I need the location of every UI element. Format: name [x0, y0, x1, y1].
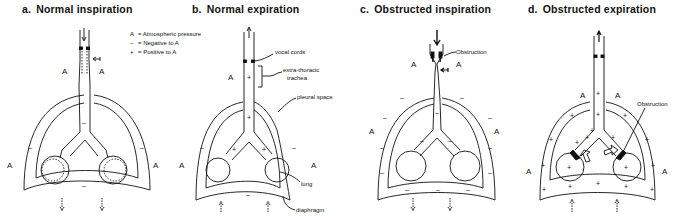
compression-arrow-icon — [93, 57, 100, 61]
lung-right — [99, 156, 127, 184]
leader-line — [255, 54, 273, 61]
pos-sign: + — [590, 127, 594, 134]
pos-sign: + — [585, 134, 589, 141]
vocal-cord-right — [252, 60, 255, 63]
neg-sign: – — [383, 114, 387, 121]
diaphragm-up-arrow-icon — [219, 201, 223, 212]
respiration-diagrams: A A A A – – – – A = Atmospheric pressure… — [0, 0, 679, 216]
neg-sign: – — [420, 137, 424, 144]
pos-sign: + — [645, 136, 649, 143]
bronchus-right — [90, 132, 108, 158]
vocal-cord-right — [601, 55, 604, 58]
neg-sign: – — [488, 169, 492, 176]
neg-sign: – — [380, 169, 384, 176]
neg-sign: – — [380, 144, 384, 151]
atm-label: A — [580, 91, 586, 100]
neg-sign: – — [460, 94, 464, 101]
bronchi-inner — [70, 140, 98, 156]
atm-label: A — [615, 91, 621, 100]
vocal-cord-left — [80, 47, 83, 50]
trachea-dashed — [82, 48, 87, 75]
atm-label: A — [526, 167, 532, 176]
panel-c-diagram: Obstruction A A A A – – – – – – – – – – … — [369, 30, 500, 211]
compression-arrow-icon — [604, 145, 618, 155]
extra-thoracic-bracket — [258, 66, 282, 87]
airflow-out-arrow-icon — [247, 27, 251, 38]
vocal-cord-left — [244, 60, 247, 63]
pos-sign: + — [570, 112, 574, 119]
diaphragm-up-arrow-icon — [615, 199, 619, 212]
lung-left — [41, 156, 69, 184]
lung-label: lung — [301, 181, 312, 187]
pos-sign: + — [247, 74, 251, 81]
obstruction-right — [439, 52, 442, 58]
atm-label: A — [311, 161, 317, 170]
lung-right — [265, 158, 289, 182]
pos-sign: + — [596, 111, 600, 118]
pos-sign: + — [624, 183, 628, 190]
pos-sign: + — [262, 146, 266, 153]
diaphragm-up-arrow-icon — [570, 199, 574, 212]
extra-thoracic-label: extra-thoracic — [283, 67, 319, 73]
atm-label: A — [662, 167, 668, 176]
neg-sign: – — [82, 182, 86, 189]
neg-sign: – — [82, 119, 86, 126]
pos-sign: + — [624, 164, 628, 171]
atm-label: A — [228, 73, 234, 82]
lung-left — [206, 158, 230, 182]
legend-symbol: – — [130, 40, 134, 46]
pleural-inner — [36, 103, 138, 178]
neg-sign: – — [405, 186, 409, 193]
atm-label: A — [7, 161, 13, 170]
pos-sign: + — [542, 186, 546, 193]
neg-sign: – — [246, 191, 250, 198]
obstruction-label: Obstruction — [637, 101, 668, 107]
pos-sign: + — [596, 90, 600, 97]
pleural-space-label: pleural space — [297, 94, 333, 100]
atm-label: A — [153, 161, 159, 170]
atm-label: A — [456, 60, 462, 69]
bronchus-left — [60, 132, 80, 158]
legend-symbol: A — [130, 31, 134, 37]
obstruction-right — [616, 150, 626, 160]
atm-label: A — [62, 67, 68, 76]
legend: A = Atmospheric pressure – = Negative to… — [130, 31, 202, 55]
obstruction-left — [431, 52, 434, 58]
pos-sign: + — [247, 114, 251, 121]
trachea-left — [79, 30, 80, 132]
neg-sign: – — [488, 114, 492, 121]
diaphragm-down-arrow-icon — [448, 198, 452, 211]
vocal-cords-label: vocal cords — [275, 49, 305, 55]
atm-label: A — [494, 127, 500, 136]
trachea-label: trachea — [287, 75, 308, 81]
pos-sign: + — [596, 180, 600, 187]
neg-sign: – — [435, 109, 439, 116]
diaphragm-down-arrow-icon — [411, 198, 415, 211]
neg-sign: – — [140, 144, 144, 151]
neg-sign: – — [448, 137, 452, 144]
pos-sign: + — [232, 146, 236, 153]
obstruction-label: Obstruction — [456, 49, 487, 55]
lung-right — [450, 151, 480, 181]
atm-label: A — [99, 67, 105, 76]
pleural-inner — [388, 104, 483, 188]
panel-d-diagram: Obstruction A A A A + + + + + + + + + + … — [526, 31, 668, 212]
diaphragm-up-arrow-icon — [266, 201, 270, 212]
lung-left-expanded — [42, 159, 64, 181]
neg-sign: – — [28, 144, 32, 151]
vocal-cord-right — [87, 47, 90, 50]
obstruction-left — [570, 150, 580, 160]
airflow-out-arrow-icon — [597, 31, 601, 42]
pos-sign: + — [651, 162, 655, 169]
diaphragm-label: diaphragm — [296, 207, 324, 213]
neg-sign: – — [292, 144, 296, 151]
neg-sign: – — [488, 144, 492, 151]
neg-sign: – — [436, 186, 440, 193]
neg-sign: – — [200, 144, 204, 151]
panel-a-diagram: A A A A – – – – — [7, 28, 159, 211]
atm-label: A — [369, 127, 375, 136]
pos-sign: + — [568, 183, 572, 190]
pos-sign: + — [575, 139, 579, 146]
panel-b-diagram: vocal cords extra-thoracic trachea pleur… — [179, 27, 333, 213]
legend-desc: = Positive to A — [138, 49, 176, 55]
